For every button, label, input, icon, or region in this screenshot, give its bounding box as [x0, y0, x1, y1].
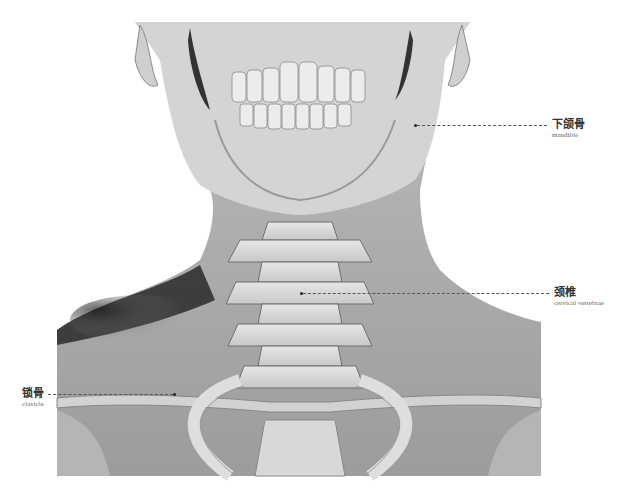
cervical-vertebrae-label: 颈椎 cervical vertebrae — [554, 287, 604, 307]
cervical-vertebrae-label-en: cervical vertebrae — [554, 300, 604, 307]
mandible-label-zh: 下颌骨 — [552, 119, 585, 130]
clavicle-label-zh: 锁骨 — [22, 388, 44, 399]
mandible-leader-line — [417, 125, 547, 126]
clavicle-label-en: clavicle — [22, 401, 44, 408]
anatomy-figure: 下颌骨 mandible 颈椎 cervical vertebrae 锁骨 cl… — [0, 0, 627, 500]
clavicle-label: 锁骨 clavicle — [22, 388, 44, 408]
clavicle-leader-line — [48, 394, 173, 395]
cervical-leader-line — [303, 293, 549, 294]
clavicle-pointer-dot — [173, 393, 176, 396]
neck-skeleton-illustration — [0, 0, 627, 500]
mandible-label-en: mandible — [552, 132, 585, 139]
mandible-label: 下颌骨 mandible — [552, 119, 585, 139]
cervical-vertebrae-label-zh: 颈椎 — [554, 287, 604, 298]
